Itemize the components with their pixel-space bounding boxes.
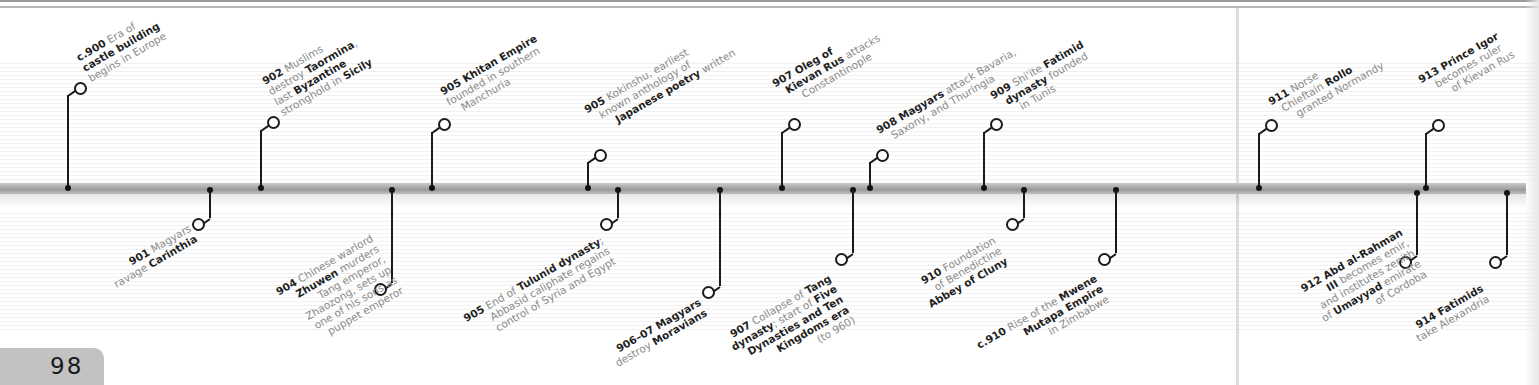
event-marker-icon — [702, 286, 715, 299]
event-marker-icon — [1489, 256, 1502, 269]
axis-dot — [65, 185, 71, 191]
event-stem — [391, 190, 393, 283]
event-marker-icon — [74, 82, 87, 95]
event-stem — [1115, 190, 1117, 253]
event-marker-icon — [192, 218, 205, 231]
axis-dot — [585, 185, 591, 191]
event-marker-icon — [1006, 218, 1019, 231]
axis-dot — [429, 185, 435, 191]
axis-dot — [779, 185, 785, 191]
event-stem — [983, 132, 985, 188]
event-stem — [209, 190, 211, 218]
event-marker-icon — [788, 118, 801, 131]
event-marker-icon — [600, 218, 613, 231]
event-marker-icon — [990, 118, 1003, 131]
timeline-axis — [0, 183, 1526, 194]
event-marker-icon — [876, 149, 889, 162]
event-marker-icon — [267, 116, 280, 129]
page-gutter-shadow — [1525, 0, 1539, 385]
axis-dot — [258, 185, 264, 191]
event-stem — [1425, 133, 1427, 188]
top-rule-secondary — [0, 6, 1539, 8]
event-marker-icon — [438, 118, 451, 131]
event-marker-icon — [835, 253, 848, 266]
event-stem — [1416, 193, 1418, 255]
axis-dot — [1256, 185, 1262, 191]
event-stem — [1506, 193, 1508, 255]
event-stem — [260, 130, 262, 188]
event-stem — [617, 190, 619, 218]
event-marker-icon — [594, 149, 607, 162]
event-stem — [431, 132, 433, 188]
event-stem — [781, 132, 783, 188]
top-rule — [0, 0, 1539, 2]
event-marker-icon — [1432, 119, 1445, 132]
event-stem — [1258, 133, 1260, 188]
axis-dot — [867, 185, 873, 191]
event-stem — [719, 190, 721, 286]
event-stem — [1023, 190, 1025, 218]
axis-dot — [1423, 185, 1429, 191]
axis-dot — [981, 185, 987, 191]
page-number: 98 — [50, 353, 83, 379]
event-stem — [852, 190, 854, 253]
event-stem — [67, 95, 69, 188]
axis-shadow — [0, 194, 1526, 208]
event-marker-icon — [1265, 119, 1278, 132]
event-marker-icon — [1098, 253, 1111, 266]
timeline-page: c.900 Era of castle building begins in E… — [0, 0, 1539, 385]
